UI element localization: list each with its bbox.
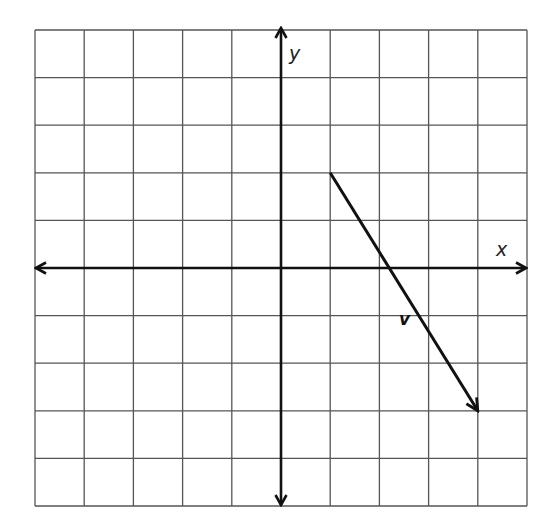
- axes: x y: [36, 28, 526, 505]
- vector-v-arrow: [330, 173, 478, 411]
- y-axis-label: y: [288, 42, 301, 64]
- coordinate-plane: x y v: [0, 0, 558, 531]
- coordinate-plane-figure: x y v: [0, 0, 558, 531]
- vector-v-label: v: [399, 309, 411, 329]
- x-axis-label: x: [495, 238, 508, 260]
- vectors: v: [330, 173, 478, 411]
